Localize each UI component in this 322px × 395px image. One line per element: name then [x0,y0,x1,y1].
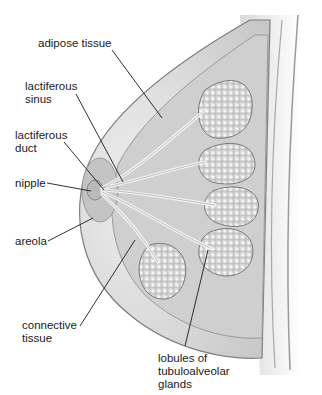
label-lactiferous-sinus: lactiferous sinus [25,80,77,106]
label-nipple: nipple [15,177,46,190]
label-areola: areola [15,235,47,248]
label-lactiferous-duct: lactiferous duct [15,129,67,155]
label-lobules: lobules of tubuloalveolar glands [158,352,230,391]
breast-anatomy-diagram: adipose tissue lactiferous sinus lactife… [0,0,322,395]
label-connective-tissue: connective tissue [22,319,77,345]
label-adipose-tissue: adipose tissue [38,37,112,50]
